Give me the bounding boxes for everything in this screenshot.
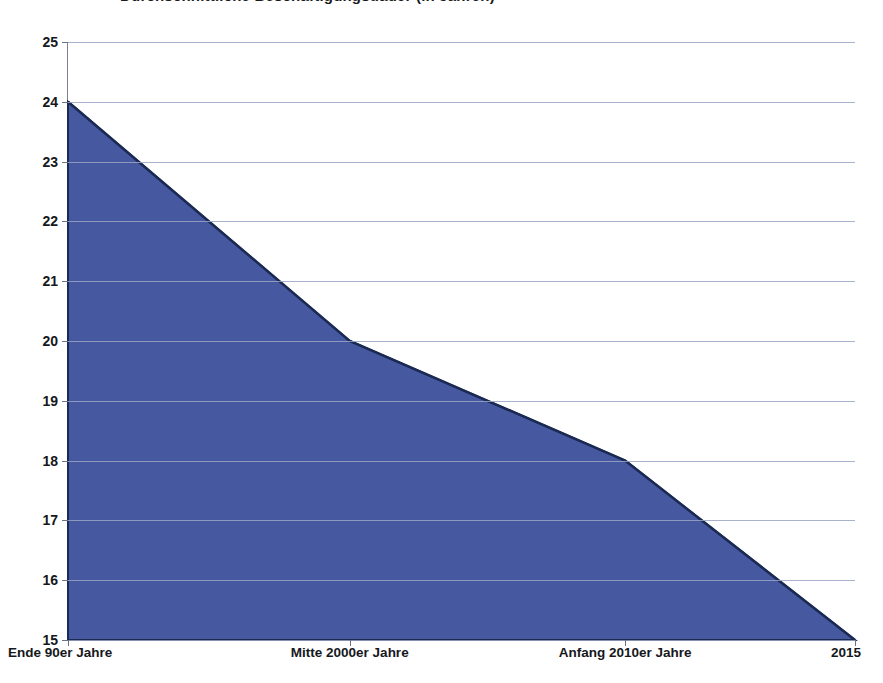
y-tick-label-23: 23 <box>18 155 58 169</box>
y-tick-mark-25 <box>62 42 68 43</box>
page-title: Durchschnittliche Beschäftigungsdauer (i… <box>120 0 495 4</box>
y-tick-label-18: 18 <box>18 454 58 468</box>
y-tick-mark-21 <box>62 281 68 282</box>
gridline-y-19 <box>68 401 855 402</box>
gridline-y-17 <box>68 520 855 521</box>
x-tick-mark-1 <box>350 640 351 646</box>
chart-title-clipped: Durchschnittliche Beschäftigungsdauer (i… <box>0 0 883 9</box>
y-tick-label-21: 21 <box>18 274 58 288</box>
y-axis-labels: 2524232221201918171615 <box>10 0 58 683</box>
x-tick-mark-0 <box>68 640 69 646</box>
y-tick-label-22: 22 <box>18 214 58 228</box>
gridline-y-24 <box>68 102 855 103</box>
y-tick-mark-22 <box>62 221 68 222</box>
area-polygon <box>68 102 855 640</box>
y-tick-mark-20 <box>62 341 68 342</box>
y-tick-mark-18 <box>62 461 68 462</box>
x-tick-label-2: Anfang 2010er Jahre <box>559 646 692 660</box>
x-axis-labels: Ende 90er JahreMitte 2000er JahreAnfang … <box>0 646 883 670</box>
y-tick-label-25: 25 <box>18 35 58 49</box>
y-tick-mark-16 <box>62 580 68 581</box>
y-tick-mark-17 <box>62 520 68 521</box>
gridline-y-22 <box>68 221 855 222</box>
x-tick-mark-2 <box>625 640 626 646</box>
gridline-y-25 <box>68 42 855 43</box>
area-chart: Durchschnittliche Beschäftigungsdauer (i… <box>0 0 883 683</box>
y-tick-label-20: 20 <box>18 334 58 348</box>
gridline-y-23 <box>68 162 855 163</box>
y-tick-mark-23 <box>62 162 68 163</box>
gridline-y-21 <box>68 281 855 282</box>
y-tick-mark-19 <box>62 401 68 402</box>
y-tick-mark-24 <box>62 102 68 103</box>
x-tick-label-3: 2015 <box>831 646 861 660</box>
y-tick-label-17: 17 <box>18 513 58 527</box>
gridline-y-20 <box>68 341 855 342</box>
gridline-y-18 <box>68 461 855 462</box>
x-tick-label-0: Ende 90er Jahre <box>8 646 112 660</box>
plot-area <box>68 42 855 640</box>
gridline-y-15 <box>68 640 855 641</box>
x-tick-label-1: Mitte 2000er Jahre <box>291 646 409 660</box>
y-tick-label-19: 19 <box>18 394 58 408</box>
y-tick-label-16: 16 <box>18 573 58 587</box>
x-tick-mark-3 <box>855 640 856 646</box>
gridline-y-16 <box>68 580 855 581</box>
y-tick-label-24: 24 <box>18 95 58 109</box>
